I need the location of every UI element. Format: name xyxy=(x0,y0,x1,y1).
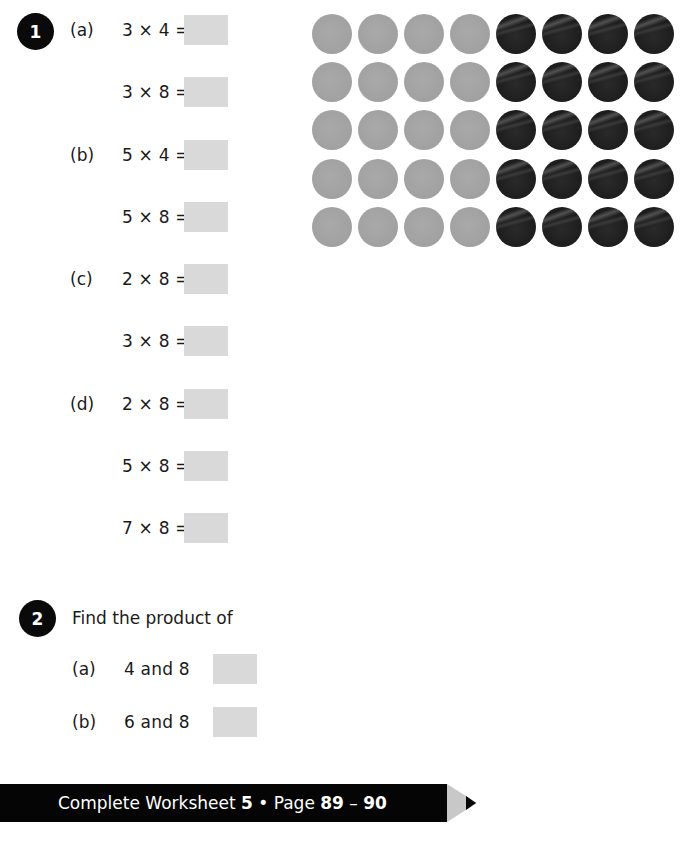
answer-box[interactable] xyxy=(184,140,228,170)
answer-box[interactable] xyxy=(184,513,228,543)
black-counter xyxy=(496,159,536,199)
answer-box[interactable] xyxy=(213,707,257,737)
equation: 2 × 8 = xyxy=(122,394,190,414)
black-counter xyxy=(496,110,536,150)
footer-separator: • Page xyxy=(253,793,320,813)
black-counter xyxy=(634,62,674,102)
answer-box[interactable] xyxy=(184,15,228,45)
grey-counter xyxy=(450,207,490,247)
black-counter xyxy=(588,159,628,199)
equation: 5 × 8 = xyxy=(122,207,190,227)
page-start: 89 xyxy=(320,793,344,813)
answer-box[interactable] xyxy=(184,326,228,356)
black-counter xyxy=(634,159,674,199)
part-label-b: (b) xyxy=(72,712,96,732)
equation: 5 × 4 = xyxy=(122,145,190,165)
grey-counter xyxy=(358,62,398,102)
product-pair: 6 and 8 xyxy=(124,712,190,732)
part-label-a: (a) xyxy=(70,20,94,40)
equation: 3 × 4 = xyxy=(122,20,190,40)
grey-counter xyxy=(312,207,352,247)
grey-counter xyxy=(312,159,352,199)
page-end: 90 xyxy=(363,793,387,813)
black-counter xyxy=(542,14,582,54)
answer-box[interactable] xyxy=(184,202,228,232)
black-counter xyxy=(542,62,582,102)
page-dash: – xyxy=(344,793,363,813)
grey-counter xyxy=(358,207,398,247)
grey-counter xyxy=(404,62,444,102)
black-counter xyxy=(588,14,628,54)
worksheet-reference-banner: Complete Worksheet 5 • Page 89 – 90 xyxy=(0,784,447,822)
black-counter xyxy=(542,207,582,247)
question-number: 2 xyxy=(32,609,44,629)
equation: 3 × 8 = xyxy=(122,82,190,102)
black-counter xyxy=(634,14,674,54)
grey-counter xyxy=(404,159,444,199)
part-label-c: (c) xyxy=(70,269,93,289)
black-counter xyxy=(496,14,536,54)
grey-counter xyxy=(404,110,444,150)
grey-counter xyxy=(404,207,444,247)
black-counter xyxy=(588,207,628,247)
grey-counter xyxy=(312,110,352,150)
answer-box[interactable] xyxy=(184,77,228,107)
black-counter xyxy=(496,62,536,102)
footer-prefix: Complete Worksheet xyxy=(58,793,241,813)
equation: 3 × 8 = xyxy=(122,331,190,351)
answer-box[interactable] xyxy=(213,654,257,684)
answer-box[interactable] xyxy=(184,451,228,481)
part-label-d: (d) xyxy=(70,394,94,414)
grey-counter xyxy=(358,159,398,199)
grey-counter xyxy=(450,14,490,54)
part-label-b: (b) xyxy=(70,145,94,165)
black-counter xyxy=(634,110,674,150)
equation: 2 × 8 = xyxy=(122,269,190,289)
grey-counter xyxy=(358,14,398,54)
pencil-tip-icon xyxy=(466,796,476,810)
answer-box[interactable] xyxy=(184,264,228,294)
equation: 5 × 8 = xyxy=(122,456,190,476)
grey-counter xyxy=(450,110,490,150)
black-counter xyxy=(496,207,536,247)
grey-counter xyxy=(450,62,490,102)
black-counter xyxy=(634,207,674,247)
grey-counter xyxy=(404,14,444,54)
grey-counter xyxy=(358,110,398,150)
grey-counter xyxy=(312,14,352,54)
question-number-badge: 2 xyxy=(19,600,56,637)
question-number-badge: 1 xyxy=(17,13,54,50)
grey-counter xyxy=(312,62,352,102)
black-counter xyxy=(588,110,628,150)
black-counter xyxy=(588,62,628,102)
equation: 7 × 8 = xyxy=(122,518,190,538)
answer-box[interactable] xyxy=(184,389,228,419)
product-pair: 4 and 8 xyxy=(124,659,190,679)
question-prompt: Find the product of xyxy=(72,607,233,629)
worksheet-number: 5 xyxy=(241,793,253,813)
question-number: 1 xyxy=(30,22,42,42)
black-counter xyxy=(542,159,582,199)
dot-array xyxy=(312,14,674,247)
grey-counter xyxy=(450,159,490,199)
part-label-a: (a) xyxy=(72,659,96,679)
black-counter xyxy=(542,110,582,150)
